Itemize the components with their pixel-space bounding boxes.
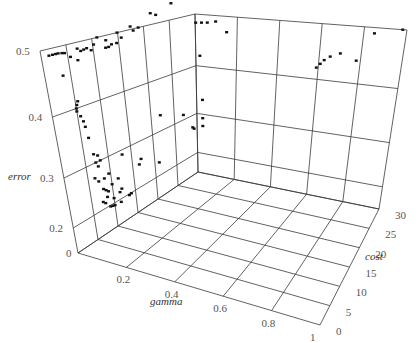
data-point: [47, 54, 50, 56]
data-point: [194, 21, 197, 23]
x-tick-label: 0.8: [262, 317, 276, 329]
y-tick-label: 0: [336, 325, 342, 337]
data-point: [97, 165, 100, 167]
data-point: [373, 32, 376, 34]
data-point: [113, 197, 116, 199]
data-point: [107, 46, 110, 48]
data-point: [106, 196, 109, 198]
data-point: [198, 55, 201, 57]
data-point: [401, 28, 404, 30]
data-point: [94, 161, 97, 163]
z-tick-label: 0.4: [28, 111, 42, 123]
grid-lines: [40, 14, 407, 325]
data-point: [201, 117, 204, 119]
data-point: [62, 74, 65, 76]
data-point: [206, 21, 209, 23]
data-point: [79, 115, 82, 117]
data-point: [130, 192, 133, 194]
data-point: [111, 183, 114, 185]
x-tick-label: 0.2: [116, 273, 130, 285]
data-point: [201, 125, 204, 127]
data-point: [76, 47, 79, 49]
y-axis-label: cost: [365, 250, 384, 262]
data-point: [107, 190, 110, 192]
data-point: [51, 54, 54, 56]
x-tick-label: 0.6: [213, 302, 227, 314]
data-point: [69, 56, 72, 58]
data-point: [93, 177, 96, 179]
y-tick-label: 10: [356, 286, 368, 298]
z-tick-label: 0: [66, 247, 72, 259]
data-point: [154, 14, 157, 16]
data-point: [315, 66, 318, 68]
x-tick-label: 1: [310, 331, 316, 343]
data-point: [90, 49, 93, 51]
data-point: [54, 53, 57, 55]
data-point: [119, 191, 122, 193]
data-point: [115, 42, 118, 44]
data-point: [104, 202, 107, 204]
data-point: [138, 163, 141, 165]
data-point: [225, 31, 228, 33]
data-point: [140, 158, 143, 160]
z-tick-label: 0.3: [40, 172, 54, 184]
data-point: [82, 48, 85, 50]
data-point: [60, 52, 63, 54]
data-point: [92, 43, 95, 45]
data-point: [57, 52, 60, 54]
data-point: [96, 154, 99, 156]
data-point: [107, 172, 110, 174]
y-tick-label: 15: [366, 267, 378, 279]
data-point: [329, 55, 332, 57]
y-tick-label: 30: [395, 209, 407, 221]
data-point: [129, 25, 132, 27]
data-point: [201, 99, 204, 101]
data-point: [99, 159, 102, 161]
data-point: [115, 31, 118, 33]
data-point: [75, 110, 78, 112]
data-point: [103, 177, 106, 179]
data-point: [85, 47, 88, 49]
data-point: [169, 2, 172, 4]
data-point: [97, 180, 100, 182]
scatter-3d-chart: 00.20.30.40.50.20.40.60.81051015202530 e…: [0, 0, 418, 343]
data-point: [193, 127, 196, 129]
data-point: [137, 26, 140, 28]
data-point: [120, 36, 123, 38]
data-point: [355, 59, 358, 61]
data-point: [132, 29, 135, 31]
data-point: [82, 120, 85, 122]
data-point: [76, 59, 79, 61]
data-point: [158, 161, 161, 163]
data-point: [75, 104, 78, 106]
data-point: [319, 63, 322, 65]
tick-labels: 00.20.30.40.50.20.40.60.81051015202530: [16, 45, 407, 343]
z-tick-label: 0.2: [49, 222, 63, 234]
data-point: [182, 114, 185, 116]
data-point: [120, 187, 123, 189]
y-tick-label: 5: [346, 306, 352, 318]
data-point: [87, 137, 90, 139]
data-point: [104, 47, 107, 49]
data-point: [120, 201, 123, 203]
data-point: [114, 204, 117, 206]
data-point: [200, 21, 203, 23]
data-point: [110, 43, 113, 45]
data-point: [95, 36, 98, 38]
data-point: [339, 52, 342, 54]
data-point: [149, 12, 152, 14]
data-point: [117, 177, 120, 179]
z-axis-label: error: [8, 170, 32, 182]
x-axis-label: gamma: [150, 295, 183, 307]
y-tick-label: 25: [385, 228, 397, 240]
data-point: [79, 50, 82, 52]
data-point: [75, 107, 78, 109]
data-point: [92, 153, 95, 155]
data-point: [63, 52, 66, 54]
data-point: [159, 114, 162, 116]
data-point: [84, 126, 87, 128]
z-tick-label: 0.5: [16, 45, 30, 57]
data-point: [323, 59, 326, 61]
data-point: [121, 153, 124, 155]
data-point: [214, 20, 217, 22]
